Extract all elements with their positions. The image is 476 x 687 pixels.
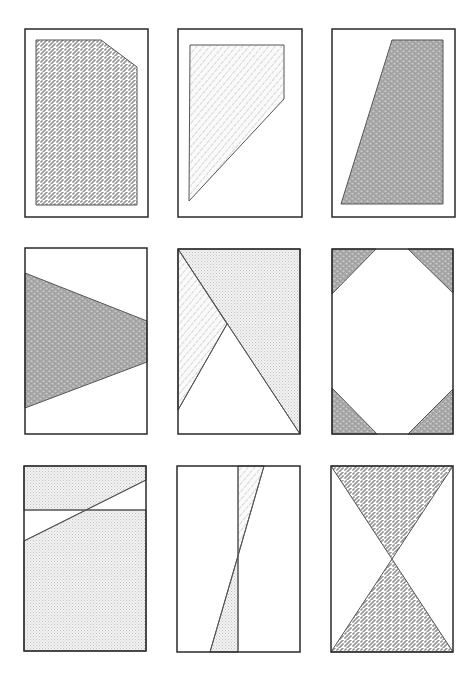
- panel-grid: [24, 29, 455, 652]
- panel-5: [178, 249, 300, 434]
- panel-7: [24, 466, 146, 651]
- panel-9: [331, 466, 453, 652]
- panel-4: [25, 248, 147, 434]
- panel-8: [177, 466, 300, 652]
- panel-6: [332, 249, 453, 434]
- panel-3: [332, 29, 455, 217]
- figure-canvas: [0, 0, 476, 687]
- panel-2: [178, 29, 302, 217]
- shaded-region-zigzag: [36, 40, 137, 205]
- panel-1: [25, 29, 148, 217]
